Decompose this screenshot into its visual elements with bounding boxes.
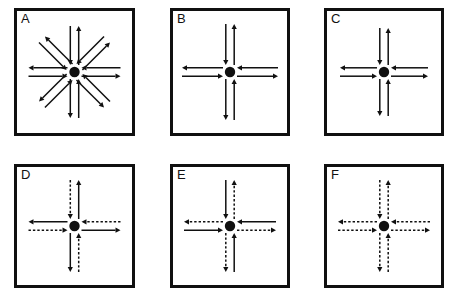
figure-root: ABCDEF bbox=[0, 0, 454, 292]
panel-e-label: E bbox=[177, 168, 186, 181]
panel-c: C bbox=[324, 8, 444, 136]
panel-b-label: B bbox=[177, 12, 186, 25]
panel-e-arrow-diagram bbox=[173, 167, 287, 285]
panel-b: B bbox=[170, 8, 290, 136]
panel-a-arrow-diagram bbox=[17, 11, 132, 133]
panel-f: F bbox=[324, 164, 444, 288]
panel-c-label: C bbox=[331, 12, 340, 25]
panel-a-label: A bbox=[21, 12, 30, 25]
panel-d-label: D bbox=[21, 168, 30, 181]
panel-a: A bbox=[14, 8, 135, 136]
panel-e: E bbox=[170, 164, 290, 288]
panel-b-arrow-diagram bbox=[173, 11, 287, 133]
panel-d-arrow-diagram bbox=[17, 167, 132, 285]
panel-f-label: F bbox=[331, 168, 339, 181]
panel-d: D bbox=[14, 164, 135, 288]
panel-c-arrow-diagram bbox=[327, 11, 441, 133]
panel-f-arrow-diagram bbox=[327, 167, 441, 285]
